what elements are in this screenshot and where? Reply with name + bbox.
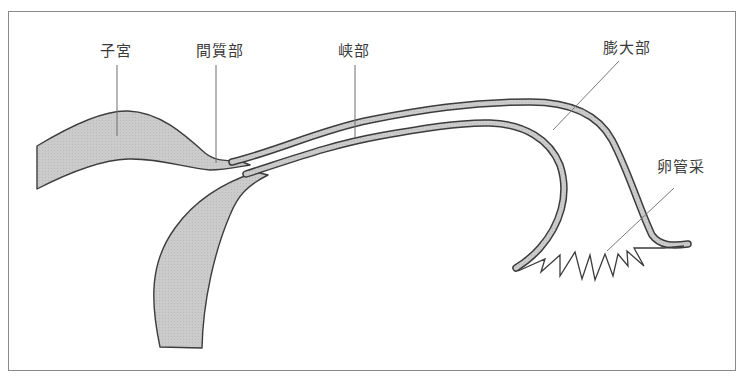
- label-ampulla: 膨大部: [603, 41, 651, 56]
- uterus-shape: [37, 111, 250, 189]
- label-fimbriae: 卵管采: [657, 160, 705, 175]
- label-interstitial: 間質部: [196, 44, 244, 59]
- leader-line-ampulla: [553, 61, 619, 130]
- uterine-wall-lower: [154, 172, 268, 348]
- fimbriae-shape: [518, 246, 684, 280]
- label-isthmus: 峡部: [338, 44, 370, 59]
- label-uterus: 子宮: [100, 44, 132, 59]
